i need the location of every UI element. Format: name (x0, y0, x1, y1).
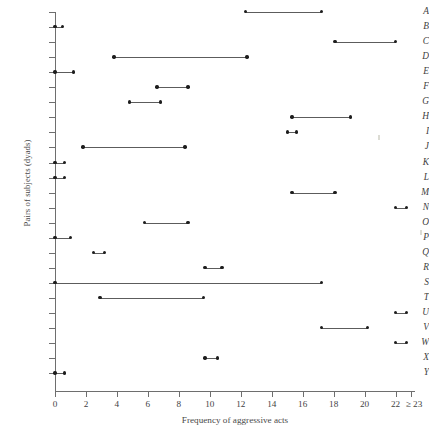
x-axis-tick-label: 10 (195, 399, 225, 409)
range-mark-i (0, 128, 429, 137)
range-low-endpoint (53, 161, 56, 164)
x-axis-tick-label: 18 (319, 399, 349, 409)
x-axis-tick (303, 391, 304, 397)
range-line (55, 283, 321, 284)
x-axis-tick (365, 391, 366, 397)
paper-speck (378, 135, 380, 140)
range-high-endpoint (202, 296, 205, 299)
range-mark-n (0, 204, 429, 213)
range-low-endpoint (112, 55, 115, 58)
range-high-endpoint (405, 206, 408, 209)
range-line (335, 42, 395, 43)
x-axis-tick (210, 391, 211, 397)
range-mark-x (0, 354, 429, 363)
x-axis-tick-label: 8 (164, 399, 194, 409)
range-mark-c (0, 38, 429, 47)
range-low-endpoint (53, 281, 56, 284)
range-mark-h (0, 113, 429, 122)
range-high-endpoint (61, 25, 64, 28)
x-axis-tick-label: 4 (102, 399, 132, 409)
range-high-endpoint (63, 371, 66, 374)
x-axis-tick (272, 391, 273, 397)
range-mark-s (0, 279, 429, 288)
range-line (100, 298, 204, 299)
range-mark-r (0, 264, 429, 273)
range-line (245, 12, 321, 13)
range-low-endpoint (53, 176, 56, 179)
x-axis-tick (241, 391, 242, 397)
x-axis-tick (411, 391, 412, 397)
x-axis-tick-label: 6 (133, 399, 163, 409)
range-high-endpoint (186, 221, 189, 224)
range-low-endpoint (203, 356, 206, 359)
x-axis-tick (86, 391, 87, 397)
range-mark-t (0, 294, 429, 303)
range-low-endpoint (81, 145, 84, 148)
x-axis-tick-label: 20 (350, 399, 380, 409)
range-line (83, 147, 185, 148)
x-axis-tick-label: 2 (71, 399, 101, 409)
range-high-endpoint (245, 55, 248, 58)
range-line (129, 102, 160, 103)
range-line (114, 57, 247, 58)
range-mark-k (0, 159, 429, 168)
x-axis-tick-label: 16 (288, 399, 318, 409)
plot-area: ABCDEFGHIJKLMNOPQRSTUVWXY 02468101214161… (0, 0, 429, 439)
range-mark-m (0, 189, 429, 198)
range-mark-f (0, 83, 429, 92)
x-axis-tick (55, 391, 56, 397)
range-high-endpoint (103, 251, 106, 254)
range-line (292, 117, 351, 118)
range-low-endpoint (128, 100, 131, 103)
range-high-endpoint (333, 191, 336, 194)
x-axis-tick-label: ≥ 23 (399, 399, 429, 409)
range-high-endpoint (394, 40, 397, 43)
range-mark-u (0, 309, 429, 318)
range-line (321, 328, 367, 329)
range-high-endpoint (220, 266, 223, 269)
range-high-endpoint (320, 281, 323, 284)
x-axis-tick (334, 391, 335, 397)
x-axis-tick (396, 391, 397, 397)
range-high-endpoint (183, 145, 186, 148)
range-low-endpoint (203, 266, 206, 269)
range-mark-g (0, 98, 429, 107)
x-axis-tick (117, 391, 118, 397)
range-high-endpoint (63, 161, 66, 164)
x-axis-tick (148, 391, 149, 397)
range-low-endpoint (155, 85, 158, 88)
range-low-endpoint (53, 70, 56, 73)
range-low-endpoint (286, 130, 289, 133)
range-mark-e (0, 68, 429, 77)
range-mark-p (0, 234, 429, 243)
range-line (55, 72, 74, 73)
range-high-endpoint (159, 100, 162, 103)
range-high-endpoint (69, 236, 72, 239)
range-plot-figure: ABCDEFGHIJKLMNOPQRSTUVWXY 02468101214161… (0, 0, 429, 439)
range-mark-l (0, 174, 429, 183)
x-axis-tick-label: 14 (257, 399, 287, 409)
range-line (292, 193, 335, 194)
y-axis-title: Pairs of subjects (dyads) (22, 93, 32, 273)
range-high-endpoint (366, 326, 369, 329)
range-high-endpoint (295, 130, 298, 133)
range-high-endpoint (320, 10, 323, 13)
range-line (157, 87, 188, 88)
range-mark-v (0, 324, 429, 333)
range-high-endpoint (216, 356, 219, 359)
range-mark-d (0, 53, 429, 62)
x-axis-tick-label: 12 (226, 399, 256, 409)
range-low-endpoint (53, 236, 56, 239)
range-low-endpoint (53, 371, 56, 374)
range-mark-q (0, 249, 429, 258)
range-line (145, 223, 188, 224)
range-mark-w (0, 339, 429, 348)
range-high-endpoint (186, 85, 189, 88)
range-mark-j (0, 143, 429, 152)
paper-speck (420, 230, 422, 235)
x-axis-line (55, 391, 415, 392)
range-mark-a (0, 8, 429, 17)
x-axis-title: Frequency of aggressive acts (55, 415, 415, 425)
range-low-endpoint (290, 115, 293, 118)
range-high-endpoint (72, 70, 75, 73)
